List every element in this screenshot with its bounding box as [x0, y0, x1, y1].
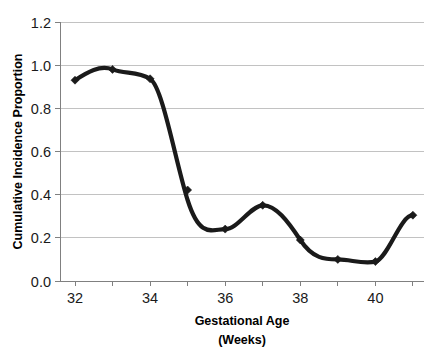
y-tick-label-0.2: 0.2: [31, 230, 51, 246]
x-tick-label-36: 36: [217, 290, 233, 306]
y-axis-tick-labels: 1.2 1.0 0.8 0.6 0.4 0.2 0.0: [31, 15, 51, 290]
y-tick-label-0.8: 0.8: [31, 101, 51, 117]
y-tick-label-1.0: 1.0: [31, 58, 51, 74]
y-axis-ticks: [55, 22, 60, 281]
x-tick-label-34: 34: [142, 290, 158, 306]
x-axis-tick-labels: 32 34 36 38 40: [67, 290, 384, 306]
x-tick-label-40: 40: [367, 290, 383, 306]
x-tick-label-38: 38: [292, 290, 308, 306]
x-axis-title-units: (Weeks): [218, 333, 266, 347]
x-axis-title: Gestational Age: [195, 314, 290, 328]
x-tick-label-32: 32: [67, 290, 83, 306]
x-axis-ticks: [75, 281, 413, 286]
y-tick-label-0.0: 0.0: [31, 274, 51, 290]
y-axis-title: Cumulative Incidence Proportion: [11, 54, 25, 250]
line-chart: 1.2 1.0 0.8 0.6 0.4 0.2 0.0 32 34 36 3: [0, 0, 438, 354]
y-tick-label-0.6: 0.6: [31, 144, 51, 160]
y-tick-label-1.2: 1.2: [31, 15, 51, 31]
y-tick-label-0.4: 0.4: [31, 187, 51, 203]
chart-container: 1.2 1.0 0.8 0.6 0.4 0.2 0.0 32 34 36 3: [0, 0, 438, 354]
